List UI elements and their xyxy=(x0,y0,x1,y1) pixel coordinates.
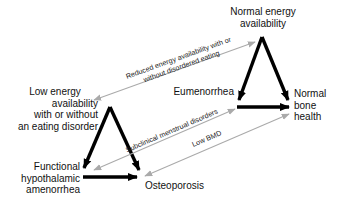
bone-continuum-arrow xyxy=(145,114,289,176)
node-text-line: Normal energy xyxy=(225,6,301,18)
node-text-line: Low energy xyxy=(2,86,98,98)
node-low-energy-availability: Low energy availability with or without … xyxy=(2,86,98,132)
node-eumenorrhea: Eumenorrhea xyxy=(160,86,234,98)
node-text-line: Osteoporosis xyxy=(145,180,204,191)
node-text-line: health xyxy=(294,111,340,123)
node-osteoporosis: Osteoporosis xyxy=(145,180,225,192)
arrow-to-normal-bone xyxy=(262,37,288,100)
node-normal-bone-health: Normal bone health xyxy=(294,88,340,123)
node-functional-hypothalamic-amenorrhea: Functional hypothalamic amenorrhea xyxy=(2,161,80,196)
node-text-line: an eating disorder xyxy=(2,121,98,133)
node-text-line: with or without xyxy=(2,109,98,121)
node-text-line: availability xyxy=(2,98,98,110)
node-text-line: bone xyxy=(294,100,340,112)
arrow-to-osteoporosis xyxy=(110,107,139,170)
node-text-line: amenorrhea xyxy=(2,184,80,196)
node-normal-energy-availability: Normal energy availability xyxy=(225,6,301,29)
node-text-line: hypothalamic xyxy=(2,173,80,185)
node-text-line: Functional xyxy=(2,161,80,173)
node-text-line: Normal xyxy=(294,88,340,100)
node-text-line: Eumenorrhea xyxy=(173,86,234,97)
node-text-line: availability xyxy=(225,18,301,30)
